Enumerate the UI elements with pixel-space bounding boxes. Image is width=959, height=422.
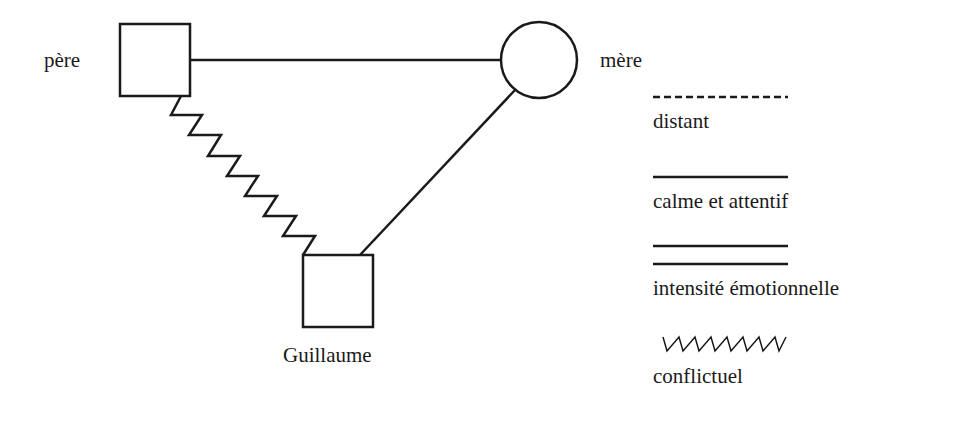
node-label-pere: père: [44, 50, 80, 71]
legend-label-calme: calme et attentif: [653, 191, 788, 212]
legend-line-zigzag: [663, 337, 786, 351]
legend-label-distant: distant: [653, 111, 709, 132]
edge-mere-guillaume: [360, 90, 515, 255]
genogram-diagram: [0, 0, 959, 422]
edge-pere-guillaume-conflict: [171, 96, 315, 255]
node-mere-circle: [501, 22, 577, 98]
node-label-guillaume: Guillaume: [283, 345, 372, 366]
node-label-mere: mère: [600, 50, 642, 71]
node-pere-square: [120, 24, 190, 96]
node-guillaume-square: [303, 255, 373, 327]
legend-label-intensite: intensité émotionnelle: [653, 278, 839, 299]
legend-label-conflictuel: conflictuel: [653, 366, 743, 387]
